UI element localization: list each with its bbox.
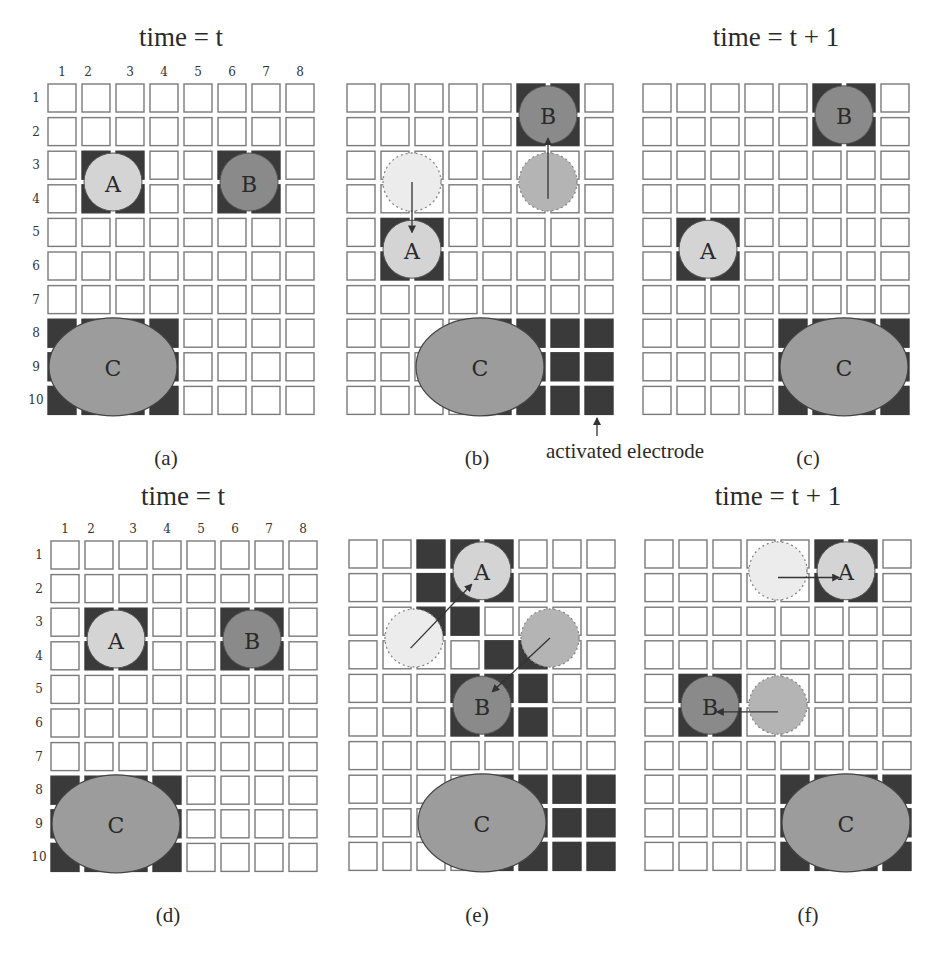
column-index: 1 [58,65,66,79]
electrode [587,607,615,635]
electrode [517,286,545,314]
electrode [747,842,775,870]
electrode [221,843,249,871]
electrode [677,151,705,179]
electrode [643,84,671,112]
electrode [417,674,445,702]
electrode [187,810,215,838]
electrode [747,607,775,635]
electrode [677,118,705,146]
electrode [883,708,911,736]
electrode [252,319,280,347]
electrode [883,641,911,669]
electrode [383,574,411,602]
column-index: 3 [129,522,137,536]
activated-electrode [519,708,547,736]
column-index: 5 [194,65,202,79]
electrode [881,118,909,146]
electrode [745,353,773,381]
droplet-a: A [453,542,511,600]
droplet-label: C [472,356,489,381]
electrode [381,84,409,112]
electrode [745,185,773,213]
electrode [383,842,411,870]
column-index: 7 [265,522,273,536]
electrode [150,84,178,112]
electrode [286,386,314,414]
droplet-b: B [519,86,577,144]
electrode [347,386,375,414]
droplet-label: B [836,104,852,129]
electrode [51,541,79,569]
electrode [349,607,377,635]
electrode [781,607,809,635]
electrode [252,84,280,112]
electrode [779,118,807,146]
electrode [519,574,547,602]
electrode [218,218,246,246]
electrode [82,286,110,314]
electrode [711,151,739,179]
activated-electrode [553,842,581,870]
electrode [381,118,409,146]
electrode [153,709,181,737]
electrode [747,742,775,770]
electrode [711,84,739,112]
electrode [587,742,615,770]
electrode [51,608,79,636]
electrode [519,540,547,568]
electrode [883,574,911,602]
electrode [679,809,707,837]
electrode [553,574,581,602]
electrode [383,775,411,803]
electrode [747,775,775,803]
previous-droplet-position [385,609,443,667]
electrode [150,218,178,246]
droplet-label: C [474,812,491,837]
electrode [184,218,212,246]
electrode [48,252,76,280]
electrode [85,541,113,569]
electrode [289,541,317,569]
droplet-label: B [702,695,718,720]
electrode [383,540,411,568]
droplet-label: A [699,239,717,264]
electrode [184,151,212,179]
electrode [849,708,877,736]
column-index: 2 [87,522,95,536]
panel-caption: (b) [465,446,490,470]
electrode [286,353,314,381]
electrode [519,742,547,770]
electrode [553,742,581,770]
electrode [551,218,579,246]
electrode [679,574,707,602]
electrode [289,675,317,703]
panel-caption: (f) [798,903,819,927]
electrode [187,743,215,771]
electrode [255,541,283,569]
electrode [218,286,246,314]
panel-e: ABC(e) [349,540,615,927]
electrode [184,319,212,347]
row-index: 2 [35,582,43,596]
electrode [815,742,843,770]
electrode [417,742,445,770]
electrode [48,151,76,179]
row-index: 10 [31,850,46,864]
electrode [643,218,671,246]
electrode [449,84,477,112]
electrode [51,709,79,737]
electrode [347,185,375,213]
row-index: 1 [32,91,40,105]
row-index: 3 [32,158,40,172]
electrode [645,742,673,770]
droplet-c: C [52,775,180,873]
electrode [153,541,181,569]
row-index: 10 [28,393,43,407]
electrode [347,252,375,280]
electrode [679,742,707,770]
droplet-label: B [540,104,556,129]
electrode [349,708,377,736]
electrode [587,540,615,568]
droplet-a: A [817,542,875,600]
